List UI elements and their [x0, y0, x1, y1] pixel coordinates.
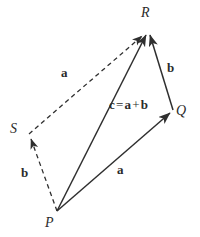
point-label-p: P [45, 216, 54, 230]
point-label-r: R [141, 6, 150, 20]
vector-diagram-figure: R Q S P a b a b c=a+b [0, 0, 200, 237]
vector-label-a-bottom: a [117, 163, 124, 176]
vector-label-a-top: a [61, 66, 68, 79]
vector-label-b-right: b [167, 61, 174, 74]
vector-label-c-expression: c=a+b [109, 98, 148, 111]
edge-p-r-vector-c [57, 35, 146, 211]
vector-canvas [0, 0, 200, 237]
edge-p-s-vector-b [31, 139, 57, 211]
edge-s-r-vector-a [29, 36, 142, 134]
edge-p-q-vector-a [57, 113, 170, 211]
point-label-s: S [10, 122, 17, 136]
expr-equals: = [115, 97, 125, 112]
expr-term-b: b [141, 97, 148, 112]
point-label-q: Q [176, 104, 186, 118]
expr-plus: + [131, 97, 141, 112]
vector-label-b-left: b [21, 166, 28, 179]
